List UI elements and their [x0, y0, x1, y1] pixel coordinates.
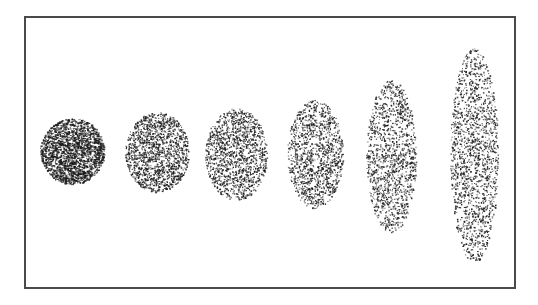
stippled-ellipse-5: [366, 80, 417, 233]
ellipse-sequence-diagram: [0, 0, 538, 305]
stippled-ellipse-4: [288, 100, 345, 209]
stippled-ellipse-6: [450, 49, 499, 262]
stippled-ellipse-2: [125, 112, 189, 193]
stippled-circle-1: [40, 119, 105, 186]
stippled-ellipse-3: [205, 109, 268, 201]
